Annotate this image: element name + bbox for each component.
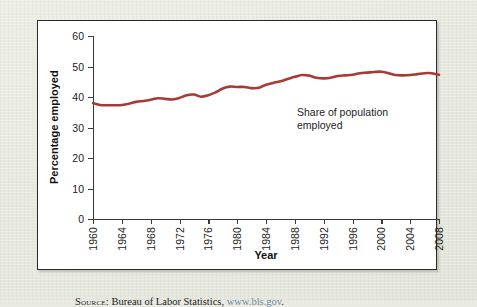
x-tick-label: 1960 bbox=[87, 227, 99, 251]
x-tick-mark bbox=[295, 219, 296, 224]
y-tick-label: 20 bbox=[72, 152, 84, 164]
x-tick-mark bbox=[237, 219, 238, 224]
source-note-label: Source: bbox=[75, 296, 109, 307]
x-axis-title: Year bbox=[93, 249, 439, 261]
x-tick-label: 1988 bbox=[289, 227, 301, 251]
series-path-share-of-population-employed bbox=[93, 72, 439, 106]
y-tick-label: 50 bbox=[72, 61, 84, 73]
chart-frame: Percentage employed 0102030405060 196019… bbox=[37, 20, 437, 270]
x-tick-mark bbox=[93, 219, 94, 224]
x-tick-mark bbox=[381, 219, 382, 224]
x-tick-mark bbox=[353, 219, 354, 224]
y-tick-label: 60 bbox=[72, 30, 84, 42]
x-tick-label: 1984 bbox=[260, 227, 272, 251]
x-tick-label: 1964 bbox=[116, 227, 128, 251]
series-annotation-label: Share of population employed bbox=[297, 106, 388, 132]
x-tick-mark bbox=[180, 219, 181, 224]
x-tick-label: 1996 bbox=[347, 227, 359, 251]
y-tick-label: 10 bbox=[72, 183, 84, 195]
x-tick-label: 2000 bbox=[375, 227, 387, 251]
x-tick-mark bbox=[410, 219, 411, 224]
x-tick-mark bbox=[208, 219, 209, 224]
x-tick-label: 1968 bbox=[145, 227, 157, 251]
figure-container: Percentage employed 0102030405060 196019… bbox=[37, 20, 441, 271]
source-note-text: Bureau of Labor Statistics, bbox=[109, 296, 227, 307]
x-tick-label: 1976 bbox=[202, 227, 214, 251]
y-tick-label: 40 bbox=[72, 91, 84, 103]
x-tick-mark bbox=[266, 219, 267, 224]
x-tick-label: 2004 bbox=[404, 227, 416, 251]
x-tick-label: 1972 bbox=[174, 227, 186, 251]
x-tick-mark bbox=[324, 219, 325, 224]
x-tick-label: 1980 bbox=[231, 227, 243, 251]
x-tick-mark bbox=[151, 219, 152, 224]
y-tick-label: 30 bbox=[72, 122, 84, 134]
y-tick-label: 0 bbox=[78, 213, 84, 225]
x-tick-mark bbox=[439, 219, 440, 224]
x-tick-label: 1992 bbox=[318, 227, 330, 251]
source-note-url[interactable]: www.bls.gov bbox=[227, 296, 282, 307]
x-tick-label: 2008 bbox=[433, 227, 445, 251]
source-note: Source: Bureau of Labor Statistics, www.… bbox=[75, 296, 284, 307]
x-tick-mark bbox=[122, 219, 123, 224]
y-axis-title: Percentage employed bbox=[46, 36, 62, 219]
source-note-period: . bbox=[281, 296, 284, 307]
